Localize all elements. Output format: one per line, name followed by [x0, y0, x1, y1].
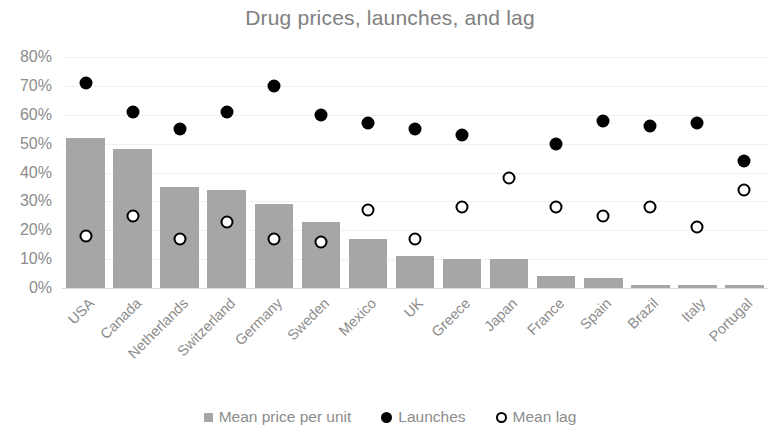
x-axis-label-slot: Brazil	[627, 289, 674, 389]
marker-slot	[203, 57, 250, 288]
chart-container: Drug prices, launches, and lag 0%10%20%3…	[0, 0, 780, 446]
marker-slot	[344, 57, 391, 288]
x-axis: USACanadaNetherlandsSwitzerlandGermanySw…	[62, 289, 768, 389]
x-axis-tick-label: UK	[401, 295, 427, 321]
mean-lag-marker[interactable]	[361, 204, 374, 217]
x-axis-label-slot: Spain	[580, 289, 627, 389]
plot-area	[62, 57, 768, 288]
mean-lag-marker[interactable]	[79, 230, 92, 243]
mean-lag-marker[interactable]	[408, 232, 421, 245]
y-axis-tick-label: 10%	[0, 250, 52, 268]
legend-label: Mean price per unit	[219, 408, 352, 426]
chart-title: Drug prices, launches, and lag	[0, 6, 780, 30]
marker-slot	[109, 57, 156, 288]
x-axis-tick-label: Spain	[577, 295, 615, 333]
x-axis-tick-label: Japan	[481, 295, 520, 334]
y-axis-tick-label: 50%	[0, 135, 52, 153]
chart-legend: Mean price per unit Launches Mean lag	[0, 408, 780, 426]
mean-lag-marker[interactable]	[267, 232, 280, 245]
marker-slot	[486, 57, 533, 288]
square-marker-icon	[204, 413, 213, 422]
marker-slot	[439, 57, 486, 288]
y-axis-tick-label: 60%	[0, 106, 52, 124]
legend-item-mean-lag[interactable]: Mean lag	[496, 408, 577, 426]
mean-lag-marker[interactable]	[738, 183, 751, 196]
marker-slot	[627, 57, 674, 288]
mean-lag-marker[interactable]	[691, 221, 704, 234]
mean-lag-marker[interactable]	[314, 235, 327, 248]
legend-item-launches[interactable]: Launches	[381, 408, 465, 426]
mean-lag-marker[interactable]	[503, 172, 516, 185]
mean-lag-marker[interactable]	[173, 232, 186, 245]
y-axis-tick-label: 70%	[0, 77, 52, 95]
marker-slot	[721, 57, 768, 288]
mean-lag-marker[interactable]	[126, 209, 139, 222]
marker-slot	[674, 57, 721, 288]
legend-label: Launches	[398, 408, 465, 426]
marker-slot	[156, 57, 203, 288]
y-axis-tick-label: 0%	[0, 279, 52, 297]
mean-lag-marker[interactable]	[456, 201, 469, 214]
legend-item-mean-price-per-unit[interactable]: Mean price per unit	[204, 408, 352, 426]
marker-slot	[250, 57, 297, 288]
marker-slot	[62, 57, 109, 288]
x-axis-tick-label: Italy	[679, 295, 709, 325]
marker-slot	[297, 57, 344, 288]
x-axis-label-slot: Mexico	[344, 289, 391, 389]
x-axis-label-slot: Greece	[439, 289, 486, 389]
y-axis-tick-label: 80%	[0, 48, 52, 66]
x-axis-label-slot: Sweden	[297, 289, 344, 389]
x-axis-tick-label: Brazil	[625, 295, 662, 332]
y-axis-tick-label: 30%	[0, 192, 52, 210]
mean-lag-marker[interactable]	[644, 201, 657, 214]
y-axis-tick-label: 20%	[0, 221, 52, 239]
x-axis-label-slot: Portugal	[721, 289, 768, 389]
x-axis-label-slot: USA	[62, 289, 109, 389]
y-axis-tick-label: 40%	[0, 164, 52, 182]
mean-lag-marker[interactable]	[597, 209, 610, 222]
mean-lag-marker[interactable]	[220, 215, 233, 228]
mean-lag-marker[interactable]	[550, 201, 563, 214]
x-axis-label-slot: Japan	[486, 289, 533, 389]
marker-slot	[580, 57, 627, 288]
legend-label: Mean lag	[513, 408, 577, 426]
x-axis-tick-label: USA	[64, 295, 96, 327]
marker-slot	[533, 57, 580, 288]
x-axis-label-slot: UK	[391, 289, 438, 389]
y-axis: 0%10%20%30%40%50%60%70%80%	[0, 57, 52, 288]
x-axis-label-slot: France	[533, 289, 580, 389]
marker-slot	[391, 57, 438, 288]
open-circle-marker-icon	[496, 412, 507, 423]
filled-circle-marker-icon	[381, 412, 392, 423]
